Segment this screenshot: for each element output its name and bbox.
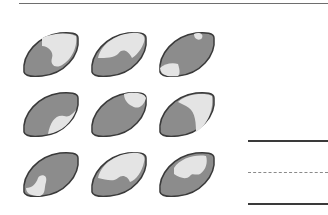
answer-line-top [248, 140, 328, 142]
lemon-half-shaded-icon [156, 88, 218, 140]
lemon-mostly-shaded-icon [156, 28, 218, 80]
top-rule [19, 3, 328, 4]
answer-writing-lines[interactable] [248, 140, 328, 206]
lemon-mostly-shaded-icon [88, 88, 150, 140]
lemon-mostly-shaded-icon [20, 148, 82, 200]
answer-line-middle-dashed [248, 172, 328, 173]
answer-line-bottom [248, 203, 328, 205]
lemon-mostly-shaded-icon [156, 148, 218, 200]
lemon-half-shaded-icon [20, 28, 82, 80]
lemon-mostly-shaded-icon [20, 88, 82, 140]
fruit-grid [16, 26, 216, 206]
lemon-half-shaded-icon [88, 148, 150, 200]
lemon-half-shaded-icon [88, 28, 150, 80]
